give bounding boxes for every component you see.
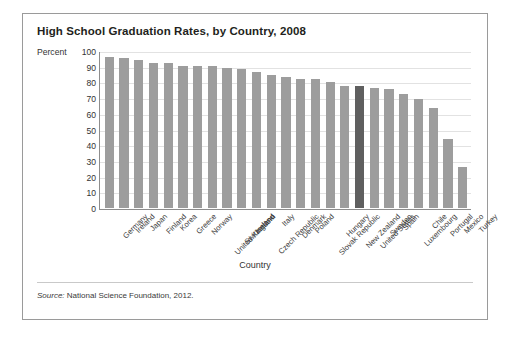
bar-norway[interactable] (193, 66, 202, 208)
bar-slot (264, 52, 279, 208)
y-axis-title: Percent (37, 47, 67, 57)
y-axis-tick-label: 20 (86, 173, 96, 183)
x-axis-tick-label: Italy (280, 212, 296, 228)
bar-slot (382, 52, 397, 208)
bar-luxembourg[interactable] (399, 94, 408, 208)
bar-slot (279, 52, 294, 208)
bar-poland[interactable] (296, 79, 305, 208)
bar-switzerland[interactable] (222, 68, 231, 208)
bar-slot (117, 52, 132, 208)
y-axis-tick-label: 30 (86, 157, 96, 167)
bar-slot (102, 52, 117, 208)
bar-turkey[interactable] (458, 167, 467, 208)
bar-germany[interactable] (105, 57, 114, 208)
source-note: Source: National Science Foundation, 201… (37, 291, 194, 300)
bar-slot (131, 52, 146, 208)
bar-hungary[interactable] (326, 82, 335, 208)
bar-slot (396, 52, 411, 208)
bar-slot (338, 52, 353, 208)
bar-slot (441, 52, 456, 208)
bar-slot (323, 52, 338, 208)
bar-slot (308, 52, 323, 208)
bar-japan[interactable] (134, 60, 143, 208)
y-axis-tick-label: 40 (86, 141, 96, 151)
plot-area: 1009080706050403020100 (99, 52, 471, 210)
bar-korea[interactable] (164, 63, 173, 208)
y-axis-tick-label: 80 (86, 78, 96, 88)
source-divider (37, 282, 473, 283)
source-text: National Science Foundation, 2012. (65, 291, 194, 300)
bar-slot (293, 52, 308, 208)
bar-united-states[interactable] (355, 86, 364, 208)
y-axis-tick-label: 10 (86, 188, 96, 198)
bar-slot (352, 52, 367, 208)
bar-slot (455, 52, 470, 208)
bar-slot (146, 52, 161, 208)
y-axis-tick-label: 90 (86, 63, 96, 73)
x-axis-title: Country (23, 260, 487, 270)
bar-ireland[interactable] (119, 58, 128, 208)
bar-chile[interactable] (414, 99, 423, 208)
y-axis-tick-label: 70 (86, 94, 96, 104)
source-label: Source: (37, 291, 65, 300)
bar-slovak-republic[interactable] (311, 79, 320, 208)
page-title: High School Graduation Rates, by Country… (37, 25, 306, 37)
bar-slot (205, 52, 220, 208)
bar-slot (176, 52, 191, 208)
bar-iceland[interactable] (237, 69, 246, 208)
bar-italy[interactable] (267, 75, 276, 208)
y-axis-tick-label: 60 (86, 110, 96, 120)
bar-slot (367, 52, 382, 208)
y-axis-tick-label: 0 (91, 204, 96, 214)
bar-denmark[interactable] (281, 77, 290, 208)
bar-series (101, 52, 471, 208)
bar-slot (190, 52, 205, 208)
gridline: 0 (100, 209, 471, 210)
y-axis-tick-label: 50 (86, 126, 96, 136)
bar-slot (161, 52, 176, 208)
bar-sweden[interactable] (370, 88, 379, 208)
x-axis-tick-label: Iceland (254, 212, 278, 236)
bar-greece[interactable] (178, 66, 187, 208)
figure-frame: High School Graduation Rates, by Country… (22, 13, 488, 320)
bar-united-kingdom[interactable] (208, 66, 217, 208)
bar-slot (249, 52, 264, 208)
bar-portugal[interactable] (429, 108, 438, 208)
bar-czech-republic[interactable] (252, 72, 261, 208)
bar-slot (234, 52, 249, 208)
bar-slot (426, 52, 441, 208)
plot-area-wrapper: 1009080706050403020100 (99, 52, 471, 210)
bar-mexico[interactable] (443, 139, 452, 208)
bar-new-zealand[interactable] (340, 86, 349, 208)
y-axis-tick-label: 100 (82, 47, 96, 57)
bar-slot (411, 52, 426, 208)
bar-spain[interactable] (384, 89, 393, 208)
bar-finland[interactable] (149, 63, 158, 208)
bar-slot (220, 52, 235, 208)
